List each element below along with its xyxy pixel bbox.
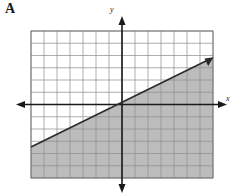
x-axis-label: x [226, 95, 230, 103]
coordinate-plane [0, 0, 234, 195]
part-label: A [5, 2, 15, 16]
graph-figure: A [0, 0, 234, 195]
x-axis-arrow-left [16, 101, 25, 108]
y-axis-label: y [110, 6, 114, 14]
y-axis-arrow-down [119, 184, 126, 193]
y-axis-arrow-up [119, 16, 126, 25]
